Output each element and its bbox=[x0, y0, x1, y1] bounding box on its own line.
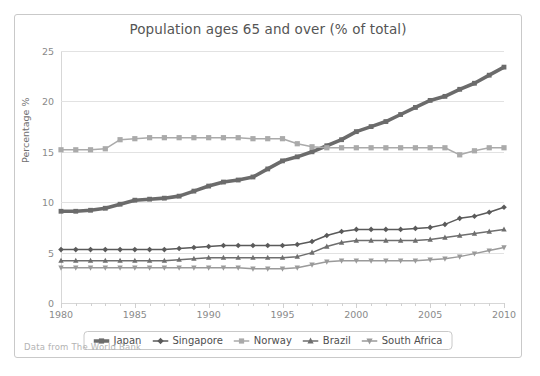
x-tick-2007 bbox=[460, 303, 461, 306]
legend-item-south-africa[interactable]: South Africa bbox=[362, 335, 443, 346]
x-tick-1985 bbox=[135, 303, 136, 308]
x-tick-2008 bbox=[474, 303, 475, 306]
x-tick-label-2000: 2000 bbox=[344, 309, 368, 320]
x-tick-1999 bbox=[342, 303, 343, 306]
x-tick-1986 bbox=[150, 303, 151, 306]
y-tick-label-0: 0 bbox=[48, 298, 54, 309]
source-note: Data from The World Bank bbox=[24, 342, 141, 352]
x-tick-1997 bbox=[312, 303, 313, 306]
x-tick-1987 bbox=[164, 303, 165, 306]
x-tick-2000 bbox=[356, 303, 357, 308]
x-tick-1982 bbox=[91, 303, 92, 306]
x-tick-label-2010: 2010 bbox=[492, 309, 516, 320]
x-tick-label-1980: 1980 bbox=[49, 309, 73, 320]
chart-frame: Population ages 65 and over (% of total)… bbox=[14, 14, 522, 358]
y-tick-label-25: 25 bbox=[42, 46, 54, 57]
x-tick-1981 bbox=[76, 303, 77, 306]
diamond-marker-icon bbox=[152, 336, 168, 346]
x-tick-1991 bbox=[223, 303, 224, 306]
x-tick-1993 bbox=[253, 303, 254, 306]
series-norway bbox=[58, 135, 506, 157]
x-tick-1994 bbox=[268, 303, 269, 306]
x-tick-2005 bbox=[430, 303, 431, 308]
x-tick-1998 bbox=[327, 303, 328, 306]
x-tick-2010 bbox=[504, 303, 505, 308]
x-tick-1995 bbox=[283, 303, 284, 308]
x-tick-1980 bbox=[61, 303, 62, 308]
x-tick-1996 bbox=[297, 303, 298, 306]
x-axis: 1980198519901995200020052010 bbox=[61, 303, 504, 325]
x-tick-2006 bbox=[445, 303, 446, 306]
x-tick-1988 bbox=[179, 303, 180, 306]
chart-title: Population ages 65 and over (% of total) bbox=[15, 21, 521, 37]
triangle-down-marker-icon bbox=[362, 336, 378, 346]
triangle-marker-icon bbox=[303, 336, 319, 346]
legend-item-singapore[interactable]: Singapore bbox=[152, 335, 222, 346]
x-tick-2009 bbox=[489, 303, 490, 306]
y-tick-label-15: 15 bbox=[42, 146, 54, 157]
square-marker-icon bbox=[234, 336, 250, 346]
legend-label: Singapore bbox=[172, 335, 222, 346]
x-tick-1983 bbox=[105, 303, 106, 306]
x-tick-1992 bbox=[238, 303, 239, 306]
x-tick-label-1985: 1985 bbox=[123, 309, 147, 320]
legend-label: Brazil bbox=[323, 335, 351, 346]
x-tick-2004 bbox=[415, 303, 416, 306]
y-tick-label-20: 20 bbox=[42, 96, 54, 107]
x-tick-label-2005: 2005 bbox=[418, 309, 442, 320]
legend-label: Norway bbox=[254, 335, 292, 346]
legend-label: South Africa bbox=[382, 335, 443, 346]
y-axis-title: Percentage % bbox=[20, 98, 31, 164]
x-tick-1990 bbox=[209, 303, 210, 308]
x-tick-2003 bbox=[401, 303, 402, 306]
x-tick-label-1990: 1990 bbox=[197, 309, 221, 320]
x-tick-2002 bbox=[386, 303, 387, 306]
x-tick-label-1995: 1995 bbox=[270, 309, 294, 320]
x-tick-1984 bbox=[120, 303, 121, 306]
x-tick-1989 bbox=[194, 303, 195, 306]
legend-item-norway[interactable]: Norway bbox=[234, 335, 292, 346]
y-tick-label-10: 10 bbox=[42, 197, 54, 208]
y-tick-label-5: 5 bbox=[48, 247, 54, 258]
series-singapore bbox=[58, 204, 507, 252]
plot-area: 0510152025 bbox=[61, 51, 504, 303]
series-layer bbox=[61, 51, 504, 303]
legend-item-brazil[interactable]: Brazil bbox=[303, 335, 351, 346]
x-tick-2001 bbox=[371, 303, 372, 306]
